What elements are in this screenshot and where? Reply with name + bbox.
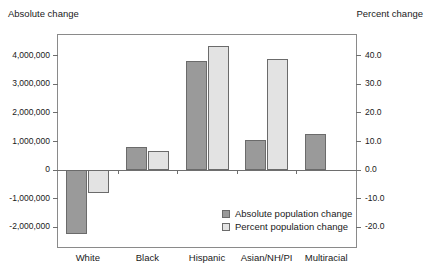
population-change-chart: Absolute change Percent change 4,000,000… bbox=[0, 0, 429, 276]
right-tick-label: 30.0 bbox=[365, 79, 382, 88]
category-label-white: White bbox=[76, 252, 100, 263]
left-tick bbox=[53, 227, 58, 228]
right-tick-label: 40.0 bbox=[365, 51, 382, 60]
left-tick bbox=[53, 55, 58, 56]
right-tick bbox=[356, 141, 361, 142]
right-tick bbox=[356, 84, 361, 85]
category-divider-tick bbox=[118, 170, 119, 174]
right-tick-label: -10.0 bbox=[365, 194, 384, 203]
left-tick-label: 4,000,000 bbox=[12, 51, 50, 60]
right-tick-label: 10.0 bbox=[365, 137, 382, 146]
left-tick bbox=[53, 170, 58, 171]
legend-swatch-icon bbox=[222, 210, 230, 218]
right-tick bbox=[356, 170, 361, 171]
category-divider-tick bbox=[296, 170, 297, 174]
right-tick bbox=[356, 55, 361, 56]
left-tick-label: 2,000,000 bbox=[12, 108, 50, 117]
right-tick bbox=[356, 227, 361, 228]
category-divider-tick bbox=[177, 170, 178, 174]
left-tick bbox=[53, 198, 58, 199]
legend-swatch-icon bbox=[222, 223, 230, 231]
bar-percent-asian-nh-pi bbox=[267, 59, 288, 169]
bar-percent-hispanic bbox=[208, 46, 229, 169]
right-axis-caption: Percent change bbox=[356, 8, 423, 19]
legend-item: Percent population change bbox=[222, 220, 352, 233]
category-label-multiracial: Multiracial bbox=[305, 252, 348, 263]
legend-label: Percent population change bbox=[235, 221, 348, 232]
left-tick-label: -2,000,000 bbox=[9, 222, 50, 231]
bar-percent-black bbox=[148, 151, 169, 170]
bar-absolute-asian-nh-pi bbox=[245, 140, 266, 170]
left-tick bbox=[53, 112, 58, 113]
left-tick bbox=[53, 141, 58, 142]
bar-absolute-hispanic bbox=[186, 61, 207, 170]
left-tick-label: -1,000,000 bbox=[9, 194, 50, 203]
left-tick-label: 0 bbox=[45, 165, 50, 174]
category-label-black: Black bbox=[136, 252, 159, 263]
legend-item: Absolute population change bbox=[222, 207, 352, 220]
legend-label: Absolute population change bbox=[235, 208, 352, 219]
category-label-asian-nh-pi: Asian/NH/PI bbox=[241, 252, 293, 263]
category-label-hispanic: Hispanic bbox=[189, 252, 225, 263]
category-divider-tick bbox=[237, 170, 238, 174]
chart-legend: Absolute population changePercent popula… bbox=[222, 207, 352, 233]
bar-percent-white bbox=[88, 170, 109, 193]
left-tick bbox=[53, 84, 58, 85]
right-tick-label: -20.0 bbox=[365, 222, 384, 231]
right-tick bbox=[356, 198, 361, 199]
left-tick-label: 1,000,000 bbox=[12, 137, 50, 146]
bar-absolute-multiracial bbox=[305, 134, 326, 170]
right-tick-label: 0.0 bbox=[365, 165, 377, 174]
left-axis-caption: Absolute change bbox=[8, 8, 79, 19]
bar-absolute-black bbox=[126, 147, 147, 170]
right-tick-label: 20.0 bbox=[365, 108, 382, 117]
left-tick-label: 3,000,000 bbox=[12, 79, 50, 88]
bar-absolute-white bbox=[66, 170, 87, 234]
right-tick bbox=[356, 112, 361, 113]
